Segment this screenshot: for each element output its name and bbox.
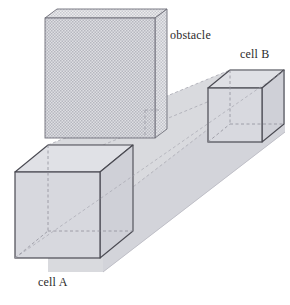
diagram-canvas — [0, 0, 290, 305]
cell-b-cube — [208, 70, 284, 142]
obstacle-side-face — [155, 9, 167, 138]
label-obstacle: obstacle — [170, 28, 211, 43]
obstacle-front-face — [45, 18, 155, 138]
obstacle-slab — [45, 9, 167, 138]
label-cell-a: cell A — [38, 275, 68, 290]
figure-root: obstacle cell B cell A — [0, 0, 290, 305]
label-cell-b: cell B — [240, 47, 270, 62]
cell-b-front-face — [208, 88, 262, 142]
cell-a-cube — [15, 145, 133, 258]
cell-a-front-face — [15, 172, 100, 258]
obstacle-top-face — [45, 9, 167, 18]
